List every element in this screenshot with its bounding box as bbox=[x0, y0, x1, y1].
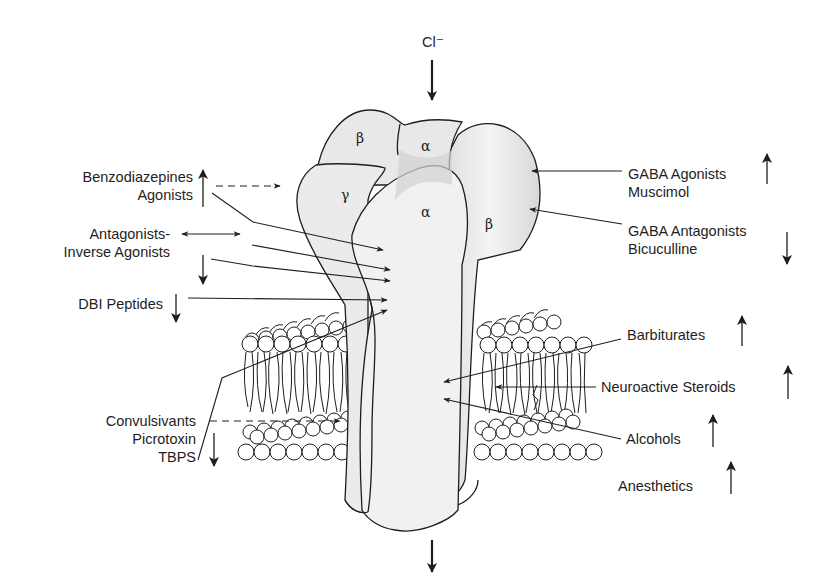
label-benzodiazepines: Benzodiazepines Agonists bbox=[83, 168, 193, 204]
label-gaba-antagonists: GABA Antagonists Bicuculline bbox=[628, 222, 747, 258]
gaba-receptor-protein bbox=[297, 110, 540, 531]
label-antagonists-inverse-agonists: Antagonists- Inverse Agonists bbox=[64, 225, 170, 261]
gaba-antagonist-arrow bbox=[530, 209, 622, 224]
gaba-receptor-diagram: β α γ α β Cl⁻ Benzodiazepines Agonists A… bbox=[0, 0, 830, 580]
subunit-label-alpha-back: α bbox=[421, 138, 430, 154]
subunit-label-beta-front: β bbox=[485, 216, 493, 232]
label-alcohols: Alcohols bbox=[626, 430, 681, 448]
label-gaba-agonists: GABA Agonists Muscimol bbox=[628, 165, 726, 201]
label-anesthetics: Anesthetics bbox=[618, 477, 693, 495]
membrane-right bbox=[474, 310, 602, 460]
label-barbiturates: Barbiturates bbox=[627, 326, 705, 344]
chloride-ion-label: Cl⁻ bbox=[422, 33, 444, 51]
label-convulsivants: Convulsivants Picrotoxin TBPS bbox=[106, 412, 196, 466]
subunit-label-alpha-front: α bbox=[421, 204, 430, 220]
subunit-label-beta-back: β bbox=[356, 130, 364, 146]
membrane-left bbox=[238, 313, 357, 460]
diagram-artwork bbox=[0, 0, 830, 580]
subunit-label-gamma: γ bbox=[341, 187, 349, 203]
label-neuroactive-steroids: Neuroactive Steroids bbox=[601, 378, 736, 396]
label-dbi-peptides: DBI Peptides bbox=[78, 295, 163, 313]
